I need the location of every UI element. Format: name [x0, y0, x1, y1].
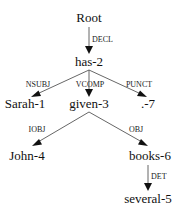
- node-given: given-3: [69, 96, 109, 111]
- edge-label-punct: PUNCT: [126, 80, 152, 89]
- edge-label-obj: OBJ: [129, 125, 143, 134]
- node-several: several-5: [124, 191, 172, 206]
- arrowhead-icon: [31, 91, 41, 98]
- node-books: books-6: [129, 148, 171, 163]
- edge-label-decl: DECL: [92, 35, 113, 44]
- node-has: has-2: [75, 54, 103, 69]
- edge-root-has: DECL: [85, 27, 113, 54]
- edge-books-several: DET: [144, 165, 167, 191]
- edge-label-iobj: IOBJ: [29, 125, 46, 134]
- arrowhead-icon: [138, 139, 148, 146]
- arrowhead-icon: [137, 91, 147, 98]
- dependency-tree-diagram: Root has-2 Sarah-1 given-3 .-7 John-4 bo…: [0, 0, 178, 214]
- node-root: Root: [76, 10, 102, 25]
- arrowhead-icon: [144, 183, 152, 191]
- arrowhead-icon: [85, 46, 93, 54]
- node-sarah: Sarah-1: [5, 96, 45, 111]
- node-punct: .-7: [141, 96, 156, 111]
- edge-given-books: OBJ: [89, 112, 148, 146]
- edge-label-vcomp: VCOMP: [76, 80, 105, 89]
- edge-label-det: DET: [151, 172, 167, 181]
- edge-given-john: IOBJ: [29, 112, 89, 146]
- node-john: John-4: [9, 148, 45, 163]
- edge-label-nsubj: NSUBJ: [26, 80, 50, 89]
